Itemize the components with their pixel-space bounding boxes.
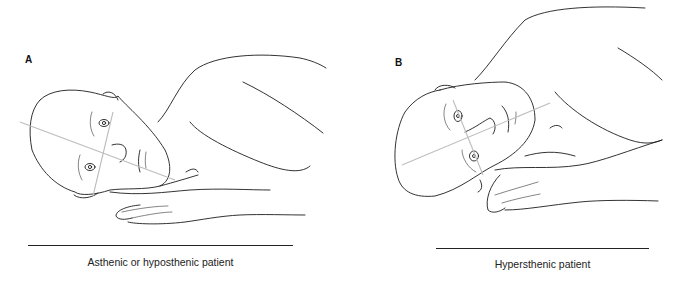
table-baseline-b	[436, 248, 649, 249]
guide-line-horizontal-a	[20, 122, 175, 180]
caption-b: Hypersthenic patient	[436, 258, 649, 270]
guide-line-vertical-b	[453, 100, 483, 175]
caption-a: Asthenic or hyposthenic patient	[28, 256, 293, 268]
back-line	[190, 122, 310, 171]
panel-a: A Asthenic or hyp	[0, 0, 340, 281]
table-baseline-a	[28, 245, 293, 246]
panel-b: B Hypersthenic pa	[340, 0, 679, 281]
patient-illustration-a	[0, 0, 340, 281]
patient-illustration-b	[340, 0, 679, 281]
